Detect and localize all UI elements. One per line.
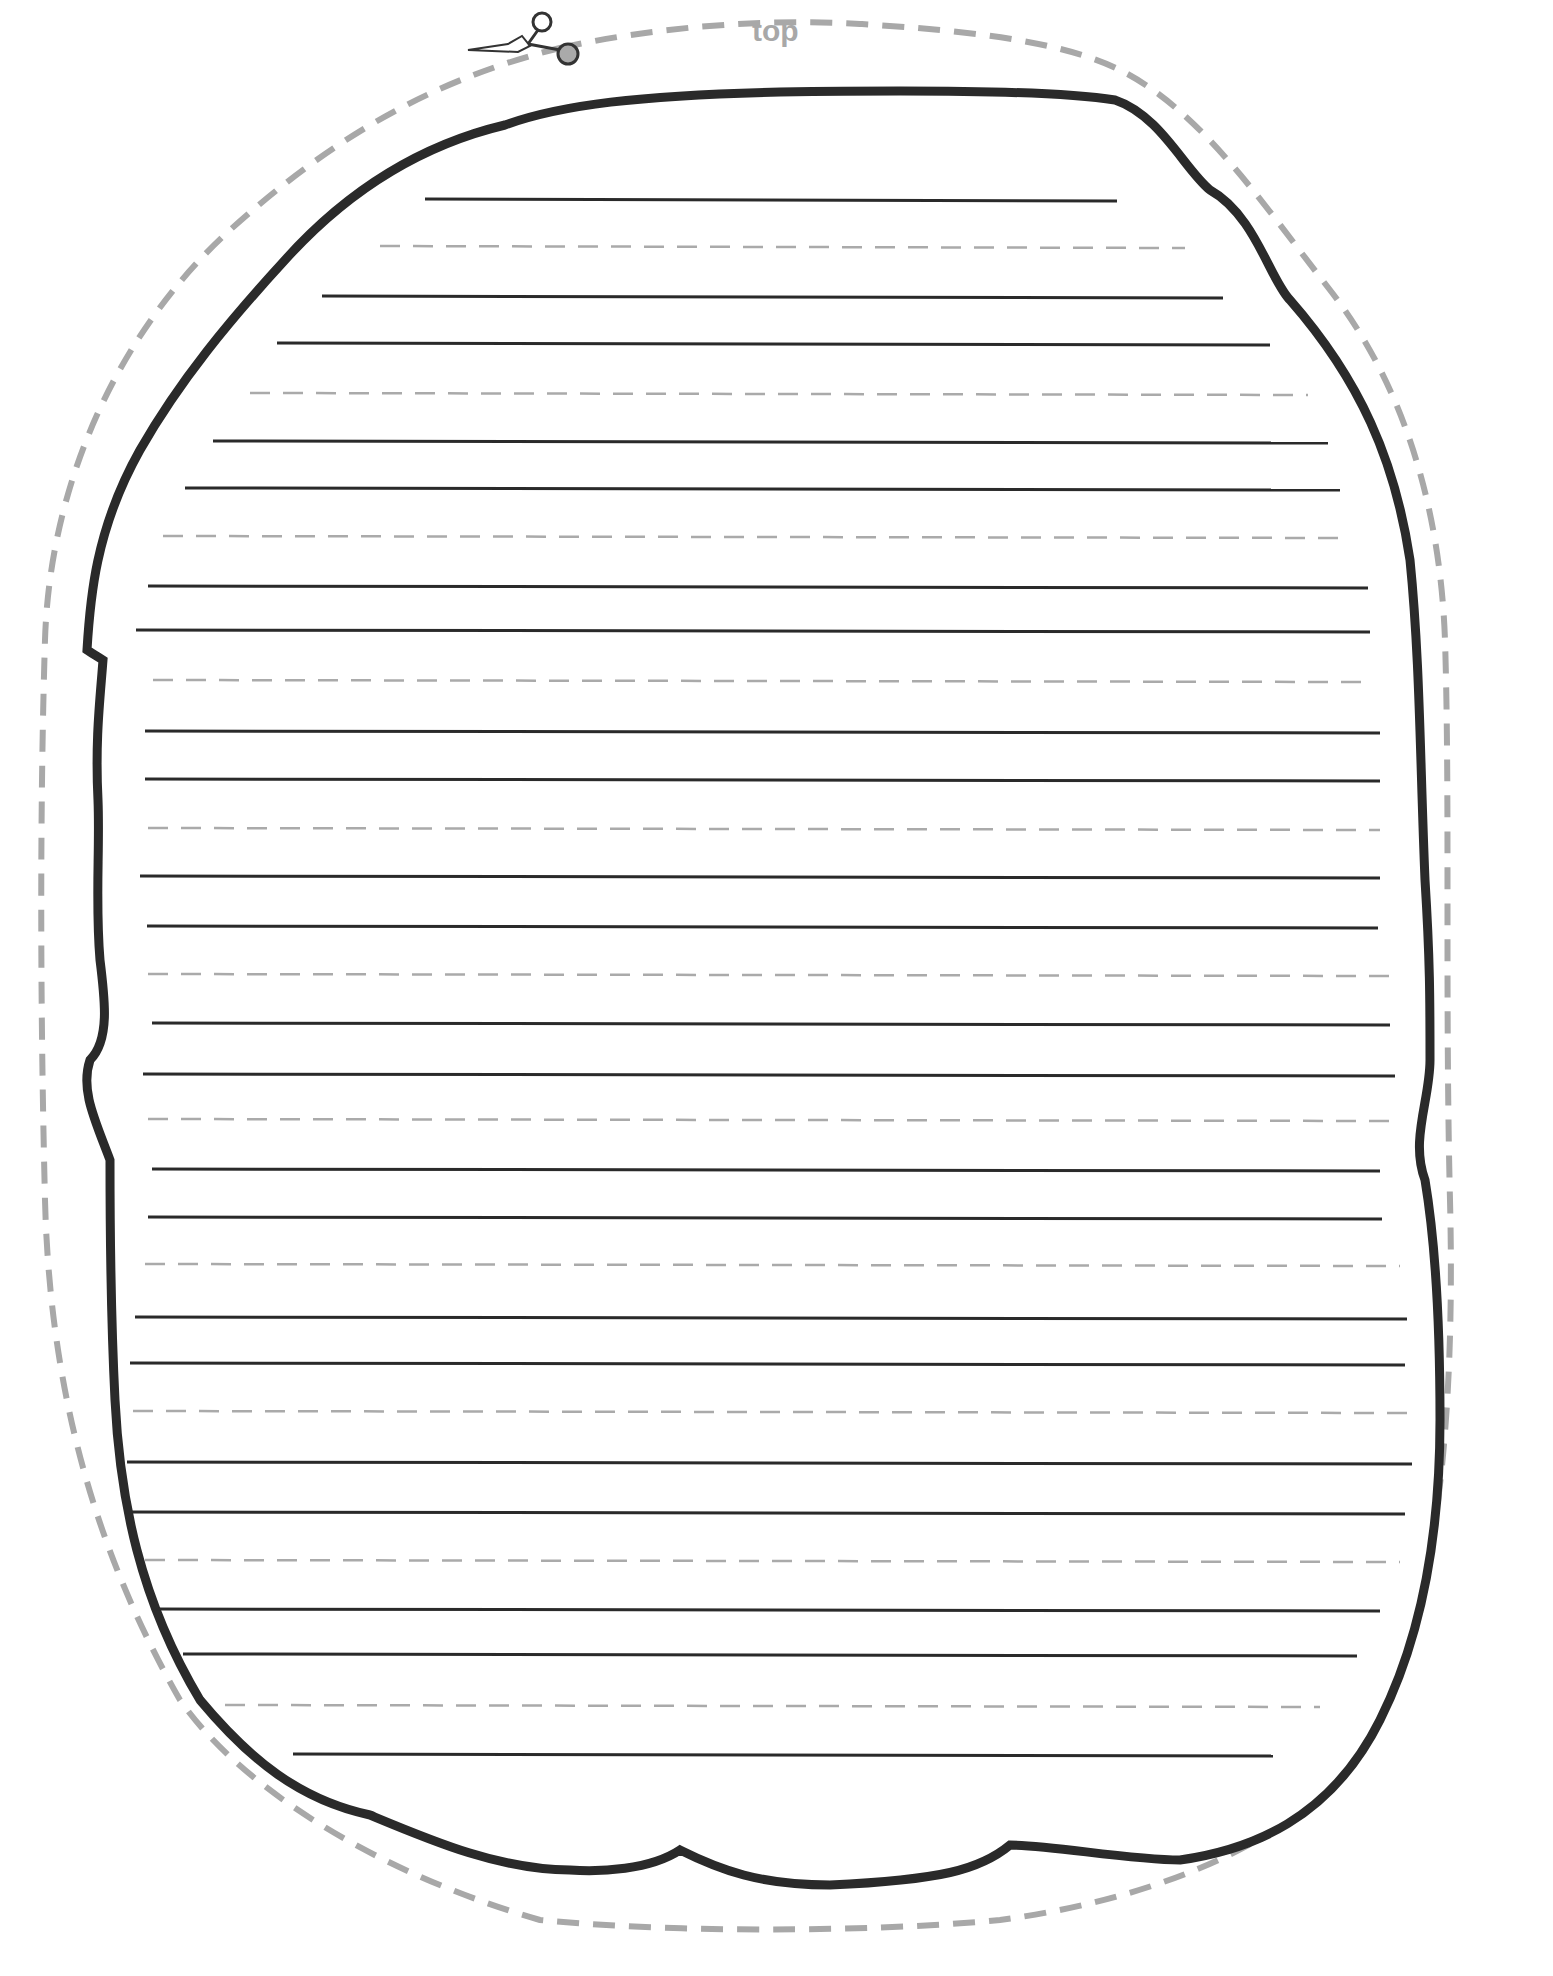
writing-line [136,630,1370,632]
worksheet-art [0,0,1553,1976]
writing-worksheet: top [0,0,1553,1976]
writing-line [135,1317,1407,1319]
writing-line [183,1654,1357,1656]
writing-line [130,1363,1405,1365]
writing-line [185,488,1340,490]
writing-line [148,586,1368,588]
shape-outline [87,91,1440,1885]
writing-line [155,1609,1380,1611]
writing-line [145,779,1380,781]
writing-line [425,199,1117,201]
writing-line [152,1023,1390,1025]
writing-line [277,343,1270,345]
writing-line [213,441,1328,443]
writing-line [143,1074,1395,1076]
writing-line [145,731,1380,733]
writing-line [140,876,1380,878]
top-label: top [752,14,799,48]
writing-line [130,1512,1405,1514]
writing-line [148,1217,1382,1219]
writing-line [147,926,1378,928]
writing-line [152,1169,1380,1171]
writing-line [293,1754,1273,1756]
writing-line [322,296,1223,298]
writing-line [127,1462,1412,1464]
